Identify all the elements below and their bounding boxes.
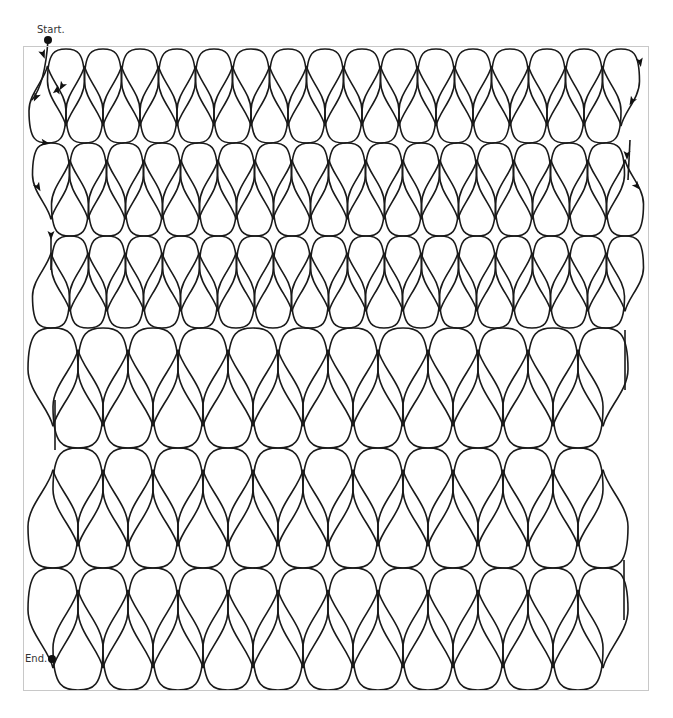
pattern-frame xyxy=(23,46,649,691)
end-label: End. xyxy=(25,653,47,665)
start-label: Start. xyxy=(37,24,65,36)
start-marker-icon xyxy=(44,36,52,44)
